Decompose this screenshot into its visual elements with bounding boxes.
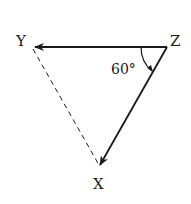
vertex-label-y: Y	[15, 32, 27, 50]
vertex-label-z: Z	[170, 32, 180, 50]
vector-triangle-diagram: Y Z X 60°	[0, 0, 191, 204]
angle-label: 60°	[111, 61, 136, 77]
angle-arc-arrowhead-icon	[147, 65, 153, 72]
vertex-label-x: X	[93, 175, 104, 193]
edge-y-x-dashed	[33, 49, 99, 165]
